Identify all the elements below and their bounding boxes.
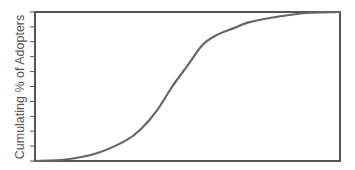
plot-frame [35,12,340,161]
adoption-curve [35,12,340,161]
s-curve-chart [0,0,355,170]
y-axis-label: Cumulating % of Adopters [13,15,27,160]
